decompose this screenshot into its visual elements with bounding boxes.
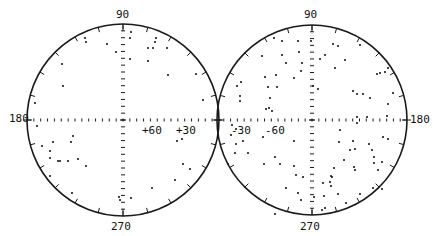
data-point: [373, 162, 375, 164]
polar-plots-figure: [0, 0, 433, 236]
rim-tick: [220, 143, 225, 144]
data-point: [174, 179, 176, 181]
rim-tick: [40, 72, 44, 75]
data-point: [115, 51, 117, 53]
rim-tick: [335, 28, 336, 33]
data-point: [247, 152, 249, 154]
data-point: [373, 156, 375, 158]
data-point: [155, 37, 157, 39]
data-point: [359, 193, 361, 195]
data-point: [67, 160, 69, 162]
data-point: [281, 40, 283, 42]
right-lat-label-minus-30: -30: [231, 125, 251, 136]
data-point: [371, 149, 373, 151]
rim-tick: [230, 73, 234, 76]
data-point: [84, 37, 86, 39]
data-point: [36, 125, 38, 127]
data-point: [356, 93, 358, 95]
data-point: [381, 188, 383, 190]
data-point: [77, 158, 79, 160]
data-point: [61, 63, 63, 65]
data-point: [344, 59, 346, 61]
rim-tick: [265, 198, 268, 202]
data-point: [379, 72, 381, 74]
data-point: [262, 136, 264, 138]
data-point: [293, 165, 295, 167]
rim-tick: [75, 199, 78, 203]
data-point: [276, 86, 278, 88]
data-point: [41, 145, 43, 147]
rim-tick: [98, 208, 99, 213]
rim-tick: [211, 144, 216, 145]
data-point: [319, 58, 321, 60]
data-point: [377, 169, 379, 171]
data-point: [271, 110, 273, 112]
data-point: [274, 213, 276, 215]
right-lat-label-minus-60: -60: [265, 125, 285, 136]
data-point: [345, 202, 347, 204]
data-point: [62, 85, 64, 87]
data-point: [333, 167, 335, 169]
data-point: [354, 169, 356, 171]
right-top-label-90: 90: [304, 9, 317, 20]
data-point: [151, 187, 153, 189]
data-point: [147, 47, 149, 49]
data-point: [324, 54, 326, 56]
data-point: [337, 193, 339, 195]
data-point: [362, 93, 364, 95]
rim-tick: [390, 73, 394, 76]
data-point: [106, 43, 108, 45]
data-point: [313, 196, 315, 198]
data-point: [273, 37, 275, 39]
data-point: [269, 97, 271, 99]
data-point: [368, 143, 370, 145]
data-point: [154, 41, 156, 43]
data-point: [366, 116, 368, 118]
data-point: [227, 163, 229, 165]
data-point: [49, 157, 51, 159]
data-point: [353, 166, 355, 168]
rim-tick: [55, 184, 59, 188]
rim-tick: [202, 166, 206, 169]
rim-tick: [202, 72, 206, 75]
data-point: [285, 62, 287, 64]
data-point: [302, 176, 304, 178]
rim-tick: [147, 208, 148, 213]
data-point: [281, 54, 283, 56]
data-point: [59, 160, 61, 162]
data-point: [381, 161, 383, 163]
data-point: [300, 70, 302, 72]
left-side-label-180: 180: [9, 113, 29, 124]
data-point: [275, 74, 277, 76]
left-lat-label-plus-60: +60: [142, 125, 162, 136]
rim-tick: [245, 53, 249, 57]
data-point: [182, 163, 184, 165]
data-point: [195, 73, 197, 75]
data-point: [119, 199, 121, 201]
rim-tick: [357, 198, 360, 202]
data-point: [387, 103, 389, 105]
data-point: [354, 148, 356, 150]
data-point: [85, 165, 87, 167]
data-point: [352, 140, 354, 142]
data-point: [295, 174, 297, 176]
data-point: [264, 76, 266, 78]
data-point: [181, 138, 183, 140]
data-point: [310, 40, 312, 42]
rim-tick: [98, 27, 99, 32]
data-point: [356, 122, 358, 124]
data-point: [322, 182, 324, 184]
left-top-label-90: 90: [116, 9, 129, 20]
rim-tick: [287, 28, 288, 33]
data-point: [176, 140, 178, 142]
right-side-label-180: 180: [410, 114, 430, 125]
data-point: [349, 149, 351, 151]
data-point: [384, 71, 386, 73]
data-point: [339, 129, 341, 131]
data-point: [297, 192, 299, 194]
data-point: [49, 150, 51, 152]
data-point: [49, 175, 51, 177]
data-point: [376, 73, 378, 75]
data-point: [317, 88, 319, 90]
rim-tick: [245, 184, 249, 188]
